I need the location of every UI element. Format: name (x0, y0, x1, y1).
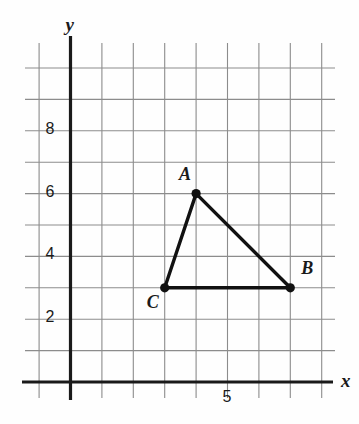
y-tick-label-4: 4 (46, 245, 55, 263)
point-label-a: A (179, 164, 191, 185)
coordinate-plane-figure: y x A B C 5 2 4 6 8 (0, 0, 359, 424)
triangle-edge-ab (196, 194, 290, 288)
point-label-c: C (147, 292, 159, 313)
y-tick-label-8: 8 (46, 120, 55, 138)
plot-canvas (0, 0, 359, 424)
vertex-dot-c (160, 283, 169, 292)
triangle-edge-ca (165, 194, 196, 288)
y-tick-label-2: 2 (46, 308, 55, 326)
point-label-b: B (301, 258, 313, 279)
x-tick-label-5: 5 (223, 388, 232, 406)
vertex-dot-a (192, 189, 201, 198)
y-axis-label: y (66, 14, 74, 36)
vertex-dot-b (286, 283, 295, 292)
y-tick-label-6: 6 (46, 183, 55, 201)
x-axis-label: x (341, 370, 351, 392)
